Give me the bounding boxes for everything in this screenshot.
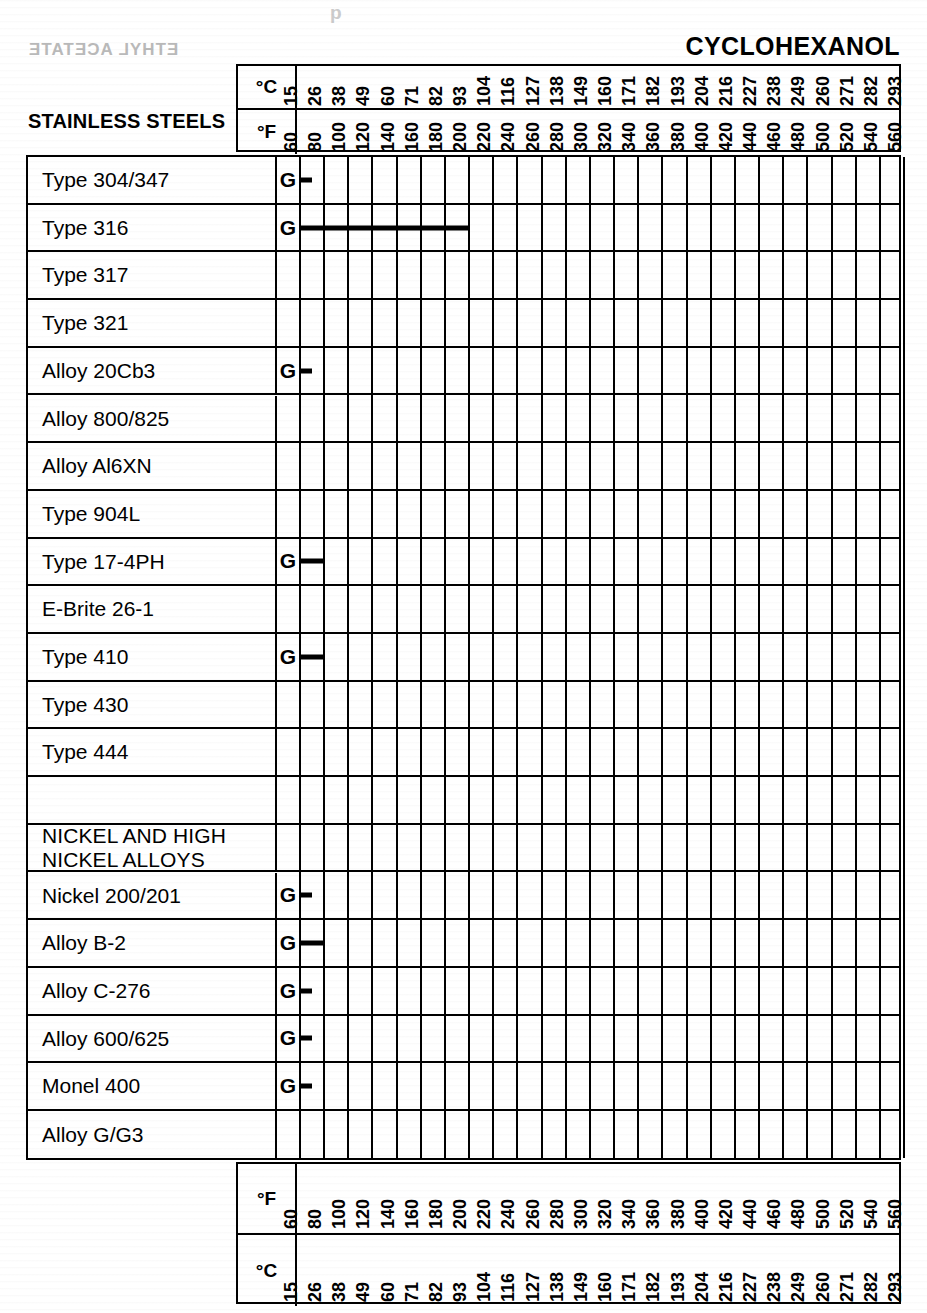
temperature-range-cell <box>299 252 899 298</box>
axis-tick-label: 127 <box>524 64 542 106</box>
rating-letter: G <box>277 348 299 394</box>
alloy-name-label: Type 321 <box>28 300 277 346</box>
axis-tick-label: 140 <box>379 1187 397 1229</box>
axis-tick-label: 500 <box>814 110 832 152</box>
axis-tick-label: 480 <box>789 110 807 152</box>
axis-tick-label: 460 <box>765 1187 783 1229</box>
alloy-name-label: Type 316 <box>28 205 277 251</box>
table-row <box>28 777 899 825</box>
temperature-range-cell <box>299 348 899 394</box>
rating-letter <box>277 825 299 871</box>
axis-tick-label: 204 <box>693 64 711 106</box>
table-row: Alloy G/G3 <box>28 1111 899 1159</box>
table-row: Alloy B-2G <box>28 920 899 968</box>
axis-tick-label: 193 <box>669 1260 687 1302</box>
rating-letter: G <box>277 1063 299 1109</box>
temperature-range-cell <box>299 1063 899 1109</box>
table-row: Type 316G <box>28 205 899 253</box>
axis-tick-label: 260 <box>814 64 832 106</box>
table-row: Monel 400G <box>28 1063 899 1111</box>
axis-tick-label: 420 <box>717 1187 735 1229</box>
axis-tick-label: 138 <box>548 1260 566 1302</box>
rating-letter <box>277 252 299 298</box>
temperature-range-bar <box>299 368 312 373</box>
axis-tick-label: 104 <box>475 1260 493 1302</box>
axis-tick-label: 193 <box>669 64 687 106</box>
table-row: Alloy 600/625G <box>28 1016 899 1064</box>
axis-tick-label: 171 <box>620 1260 638 1302</box>
axis-tick-label: 71 <box>403 64 421 106</box>
axis-tick-label: 180 <box>427 1187 445 1229</box>
rating-letter: G <box>277 157 299 203</box>
rating-letter: G <box>277 539 299 585</box>
table-row: Type 410G <box>28 634 899 682</box>
top-celsius-ticks: 1526384960718293104116127138149160171182… <box>297 66 899 108</box>
table-row: Alloy 20Cb3G <box>28 348 899 396</box>
temperature-range-cell <box>299 825 899 871</box>
alloy-name-label: Type 317 <box>28 252 277 298</box>
alloy-name-label: Type 430 <box>28 682 277 728</box>
rating-letter: G <box>277 634 299 680</box>
axis-tick-label: 180 <box>427 110 445 152</box>
axis-tick-label: 400 <box>693 1187 711 1229</box>
axis-tick-label: 260 <box>524 1187 542 1229</box>
alloy-name-label: Type 410 <box>28 634 277 680</box>
temperature-range-cell <box>299 300 899 346</box>
alloy-name-label: Alloy 20Cb3 <box>28 348 277 394</box>
table-row: Type 904L <box>28 491 899 539</box>
axis-tick-label: 200 <box>451 110 469 152</box>
alloy-name-label: Type 17-4PH <box>28 539 277 585</box>
top-axis-fahrenheit-row: °F 6080100120140160180200220240260280300… <box>238 110 899 154</box>
axis-tick-label: 120 <box>354 1187 372 1229</box>
axis-tick-label: 140 <box>379 110 397 152</box>
rating-letter: G <box>277 873 299 919</box>
axis-tick-label: 340 <box>620 1187 638 1229</box>
axis-tick-label: 300 <box>572 110 590 152</box>
temperature-range-cell <box>299 682 899 728</box>
axis-tick-label: 249 <box>789 64 807 106</box>
temperature-range-cell <box>299 443 899 489</box>
temperature-range-cell <box>299 729 899 775</box>
rating-letter <box>277 491 299 537</box>
rating-letter <box>277 586 299 632</box>
bottom-axis-celsius-row: °C 1526384960718293104116127138149160171… <box>238 1235 899 1306</box>
axis-tick-label: 80 <box>306 1187 324 1229</box>
temperature-range-cell <box>299 873 899 919</box>
axis-tick-label: 282 <box>862 1260 880 1302</box>
temperature-range-cell <box>299 777 899 823</box>
axis-tick-label: 80 <box>306 110 324 152</box>
axis-tick-label: 249 <box>789 1260 807 1302</box>
axis-tick-label: 238 <box>765 1260 783 1302</box>
axis-tick-label: 300 <box>572 1187 590 1229</box>
section-header-stainless: STAINLESS STEELS <box>28 110 225 133</box>
axis-tick-label: 82 <box>427 1260 445 1302</box>
axis-tick-label: 260 <box>524 110 542 152</box>
axis-tick-label: 127 <box>524 1260 542 1302</box>
axis-tick-label: 320 <box>596 1187 614 1229</box>
axis-tick-label: 216 <box>717 64 735 106</box>
axis-tick-label: 227 <box>741 1260 759 1302</box>
axis-tick-label: 160 <box>596 64 614 106</box>
axis-tick-label: 360 <box>644 1187 662 1229</box>
axis-tick-label: 182 <box>644 1260 662 1302</box>
axis-tick-label: 49 <box>354 1260 372 1302</box>
axis-tick-label: 182 <box>644 64 662 106</box>
axis-tick-label: 200 <box>451 1187 469 1229</box>
rating-letter: G <box>277 920 299 966</box>
axis-tick-label: 227 <box>741 64 759 106</box>
alloy-name-label: Alloy G/G3 <box>28 1111 277 1159</box>
alloy-name-label: Type 904L <box>28 491 277 537</box>
table-row: Nickel 200/201G <box>28 873 899 921</box>
axis-tick-label: 520 <box>838 110 856 152</box>
axis-tick-label: 100 <box>330 110 348 152</box>
axis-tick-label: 216 <box>717 1260 735 1302</box>
axis-tick-label: 460 <box>765 110 783 152</box>
axis-tick-label: 93 <box>451 64 469 106</box>
axis-tick-label: 560 <box>886 1187 904 1229</box>
axis-tick-label: 60 <box>282 1187 300 1229</box>
axis-tick-label: 440 <box>741 110 759 152</box>
axis-tick-label: 49 <box>354 64 372 106</box>
table-row: Type 430 <box>28 682 899 730</box>
axis-tick-label: 440 <box>741 1187 759 1229</box>
axis-tick-label: 149 <box>572 1260 590 1302</box>
